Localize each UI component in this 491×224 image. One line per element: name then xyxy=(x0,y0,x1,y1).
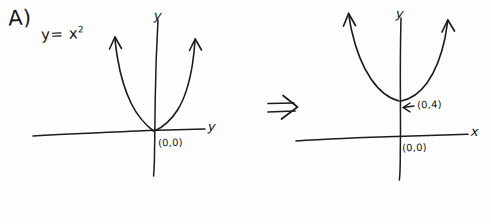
right-graph-x-axis-label: x xyxy=(471,124,479,139)
left-graph-right-branch-arrowhead xyxy=(190,39,202,51)
right-graph-origin-coordinate-label: (0,0) xyxy=(402,142,427,154)
left-graph-y-axis xyxy=(154,20,158,176)
equation-label: y= x2 xyxy=(41,24,85,44)
problem-label: A) xyxy=(7,5,32,30)
right-graph-y-axis xyxy=(399,18,401,180)
left-graph-drawing xyxy=(33,20,205,176)
left-graph-x-axis-label: y xyxy=(208,119,216,134)
right-graph-drawing xyxy=(296,14,468,181)
right-graph-vertex-pointer-arrow xyxy=(403,103,414,112)
left-graph-vertex-coordinate-label: (0,0) xyxy=(158,137,183,149)
right-graph-right-branch-arrowhead xyxy=(442,20,455,32)
handwritten-worksheet-sketch: A) y= x2 y y (0,0) y x (0,4) (0,0) xyxy=(0,0,491,224)
right-graph-vertex-coordinate-label: (0,4) xyxy=(417,99,442,111)
right-graph-x-axis xyxy=(296,134,468,141)
right-graph-parabola-left-branch xyxy=(349,15,399,101)
left-graph-y-axis-label: y xyxy=(154,8,162,23)
left-graph-x-axis xyxy=(33,129,205,136)
equation-base: y= x xyxy=(41,24,79,43)
left-graph-parabola-left-branch xyxy=(115,38,154,131)
implies-arrow-glyph xyxy=(268,96,298,120)
right-graph-parabola-right-branch xyxy=(401,21,448,101)
left-graph-parabola-right-branch xyxy=(155,40,196,131)
equation-exponent: 2 xyxy=(78,24,85,34)
right-graph-y-axis-label: y xyxy=(396,6,404,21)
